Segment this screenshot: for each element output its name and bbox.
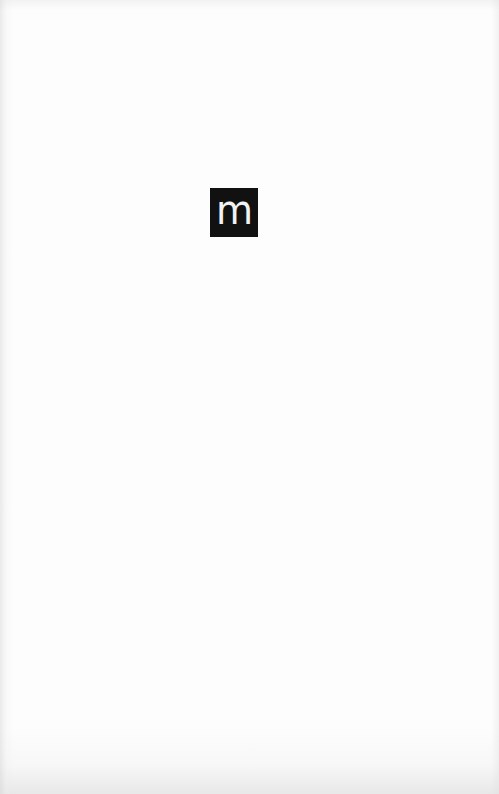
logo-glyph: m — [215, 190, 252, 230]
publisher-logo-icon: m — [210, 188, 258, 237]
document-page: m — [0, 0, 499, 794]
